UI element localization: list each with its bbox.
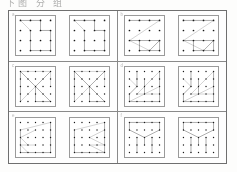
- lattice-dot: [213, 71, 214, 72]
- lattice-dot: [89, 152, 90, 153]
- lattice-dot: [28, 71, 29, 72]
- lattice-dot: [149, 50, 151, 52]
- lattice-dot: [74, 78, 75, 79]
- panel-b: b: [118, 11, 227, 62]
- lattice-dot: [20, 122, 21, 123]
- lattice-dot: [183, 71, 184, 72]
- lattice-dot: [96, 93, 97, 94]
- lattice-dot: [193, 50, 195, 52]
- lattice-dot: [74, 20, 76, 22]
- lattice-dot: [28, 86, 29, 87]
- lattice-dot: [96, 86, 97, 87]
- lattice-dot: [20, 78, 21, 79]
- lattice-dot: [129, 86, 130, 87]
- lattice-dot: [40, 40, 42, 42]
- line-segment: [130, 130, 145, 138]
- lattice-dot: [206, 129, 207, 130]
- lattice-dot: [206, 71, 207, 72]
- line-segment: [199, 130, 214, 138]
- lattice-dot: [129, 40, 131, 42]
- line-segment: [184, 86, 192, 94]
- lattice-dot: [43, 86, 44, 87]
- lattice-dot: [151, 137, 152, 138]
- lattice-dot: [206, 78, 207, 79]
- lattice-dot: [43, 137, 44, 138]
- lattice-dot: [144, 86, 145, 87]
- lattice-dot: [81, 101, 82, 102]
- lattice-dot: [20, 50, 22, 52]
- figure-3a-canvas: [18, 69, 53, 104]
- figure-6b-canvas: [181, 120, 216, 155]
- lattice-dot: [74, 30, 76, 32]
- lattice-dot: [213, 152, 214, 153]
- lattice-dot: [104, 30, 106, 32]
- lattice-dot: [43, 152, 44, 153]
- lattice-dot: [94, 20, 96, 22]
- lattice-dot: [20, 30, 22, 32]
- lattice-dot: [213, 40, 215, 42]
- lattice-dot: [151, 152, 152, 153]
- lattice-dot: [191, 137, 192, 138]
- figure-5b: [69, 117, 110, 158]
- line-segment: [184, 79, 192, 87]
- lattice-dot: [104, 20, 106, 22]
- lattice-dot: [129, 20, 131, 22]
- page-root: 下图 分 组 abcdef: [0, 0, 237, 172]
- lattice-dot: [139, 30, 141, 32]
- lattice-dot: [213, 122, 214, 123]
- lattice-dot: [81, 71, 82, 72]
- lattice-dot: [129, 152, 130, 153]
- panel-label-b: b: [121, 13, 124, 18]
- lattice-dot: [159, 86, 160, 87]
- lattice-dot: [136, 137, 137, 138]
- lattice-dot: [129, 71, 130, 72]
- lattice-dot: [50, 144, 51, 145]
- lattice-dot: [183, 86, 184, 87]
- lattice-dot: [50, 152, 51, 153]
- lattice-dot: [191, 78, 192, 79]
- lattice-dot: [159, 144, 160, 145]
- line-segment: [191, 71, 214, 94]
- lattice-dot: [136, 71, 137, 72]
- lattice-dot: [43, 129, 44, 130]
- lattice-dot: [30, 20, 32, 22]
- figure-6a: [124, 117, 165, 158]
- lattice-dot: [183, 152, 184, 153]
- lattice-dot: [104, 50, 106, 52]
- lattice-dot: [50, 50, 52, 52]
- lattice-dot: [203, 40, 205, 42]
- lattice-dot: [159, 122, 160, 123]
- lattice-dot: [81, 152, 82, 153]
- lattice-dot: [28, 152, 29, 153]
- lattice-dot: [50, 78, 51, 79]
- lattice-dot: [43, 78, 44, 79]
- figure-6b: [178, 117, 219, 158]
- lattice-dot: [35, 71, 36, 72]
- lattice-dot: [30, 40, 32, 42]
- lattice-dot: [74, 122, 75, 123]
- lattice-dot: [50, 86, 51, 87]
- lattice-dot: [159, 152, 160, 153]
- line-segment: [184, 21, 214, 41]
- lattice-dot: [136, 101, 137, 102]
- figure-4a: [124, 66, 165, 107]
- lattice-dot: [206, 101, 207, 102]
- lattice-dot: [159, 137, 160, 138]
- line-segment: [150, 41, 160, 51]
- panel-grid: abcdef: [9, 11, 226, 163]
- lattice-dot: [96, 78, 97, 79]
- lattice-dot: [96, 129, 97, 130]
- lattice-dot: [74, 93, 75, 94]
- lattice-dot: [20, 152, 21, 153]
- lattice-dot: [28, 78, 29, 79]
- lattice-dot: [136, 93, 137, 94]
- lattice-dot: [213, 78, 214, 79]
- lattice-dot: [136, 86, 137, 87]
- lattice-dot: [74, 86, 75, 87]
- lattice-dot: [159, 129, 160, 130]
- lattice-dot: [191, 122, 192, 123]
- lattice-dot: [149, 40, 151, 42]
- lattice-dot: [50, 101, 51, 102]
- line-segment: [130, 79, 138, 87]
- lattice-dot: [84, 50, 86, 52]
